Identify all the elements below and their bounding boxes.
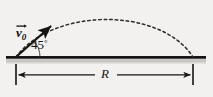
dashed-parabola-icon: [16, 19, 193, 57]
figure-canvas: [0, 0, 213, 97]
projectile-motion-figure: v0 45° R: [0, 0, 213, 97]
velocity-vector-arrow-icon: [16, 27, 51, 58]
ground-shadow-band: [6, 59, 206, 62]
angle-arc-icon: [33, 40, 40, 57]
ground-shadow-fade: [6, 62, 206, 64]
